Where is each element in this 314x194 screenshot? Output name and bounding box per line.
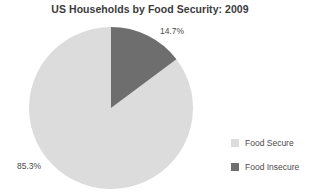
chart-legend: Food Secure Food Insecure: [231, 131, 314, 179]
data-label-food-secure: 85.3%: [17, 161, 41, 171]
legend-swatch-icon-food-secure: [231, 139, 239, 147]
chart-title: US Households by Food Security: 2009: [0, 3, 300, 15]
pie-plot-area: [29, 27, 193, 189]
legend-item-food-secure[interactable]: Food Secure: [231, 131, 314, 155]
legend-label-food-secure: Food Secure: [245, 138, 294, 148]
legend-label-food-insecure: Food Insecure: [245, 162, 299, 172]
legend-swatch-icon-food-insecure: [231, 163, 239, 171]
legend-item-food-insecure[interactable]: Food Insecure: [231, 155, 314, 179]
pie-svg: [29, 27, 193, 189]
data-label-food-insecure: 14.7%: [160, 26, 184, 36]
pie-chart-figure: US Households by Food Security: 2009 14.…: [0, 0, 314, 194]
